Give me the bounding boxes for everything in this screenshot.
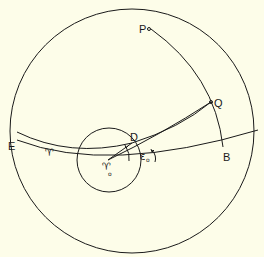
angle-arc-D [126, 147, 129, 161]
label-P: P [139, 23, 146, 35]
label-B: B [223, 151, 230, 163]
label-Q: Q [214, 97, 223, 109]
label-epsilon-sub: o [146, 156, 150, 163]
equator-arc [17, 102, 211, 148]
label-E: E [8, 140, 15, 152]
point-P-marker [148, 28, 151, 31]
label-aries0-sub: o [108, 170, 112, 177]
label-epsilon: ε [140, 151, 145, 162]
label-D: D [130, 131, 138, 143]
meridian-arc [151, 29, 223, 147]
label-aries: ♈ [45, 147, 54, 158]
celestial-diagram: P Q D E B ♈ ♈ o ε o [0, 0, 264, 257]
